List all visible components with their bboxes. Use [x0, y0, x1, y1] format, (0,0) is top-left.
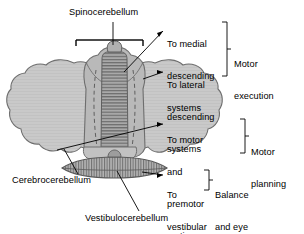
label-motor-execution: Motor execution: [234, 38, 274, 123]
label-cerebrocerebellum: Cerebrocerebellum: [12, 175, 91, 186]
label-balance-eye-movements: Balance and eye movements: [215, 169, 263, 234]
label-medial-descending-line1: To medial: [167, 39, 215, 50]
arrowhead-vestibular: [157, 173, 163, 178]
motor-planning-bracket: [240, 119, 249, 153]
label-vestibulocerebellum: Vestibulocerebellum: [85, 213, 168, 224]
label-motor-execution-line1: Motor: [234, 59, 274, 70]
label-vestibular-nuclei: To vestibular nuclei: [167, 169, 207, 234]
figure-canvas: Spinocerebellum To medial descending sys…: [0, 0, 304, 234]
label-motor-planning-line1: Motor: [251, 147, 286, 158]
label-vestibular-nuclei-line2: vestibular: [167, 222, 207, 233]
label-vestibular-nuclei-line1: To: [167, 190, 207, 201]
label-spinocerebellum: Spinocerebellum: [69, 7, 138, 18]
label-balance-line2: and eye: [215, 222, 263, 233]
vermis-strip: [101, 52, 128, 158]
label-motor-premotor-line1: To motor: [167, 135, 204, 146]
motor-execution-bracket: [222, 22, 231, 76]
label-balance-line1: Balance: [215, 190, 263, 201]
vermis-apex-nodule: [107, 41, 121, 52]
label-lateral-descending-line1: To lateral: [167, 80, 215, 91]
label-motor-execution-line2: execution: [234, 91, 274, 102]
